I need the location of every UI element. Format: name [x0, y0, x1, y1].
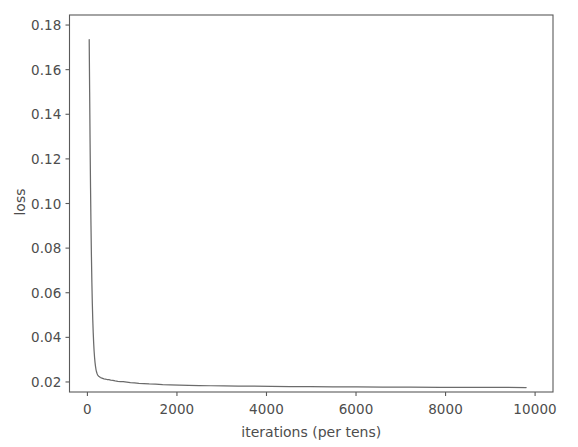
- x-tick-label: 8000: [428, 401, 463, 417]
- y-tick-label: 0.08: [31, 240, 61, 256]
- y-tick-label: 0.06: [31, 285, 61, 301]
- y-axis-label: loss: [12, 182, 28, 222]
- x-tick-label: 2000: [160, 401, 195, 417]
- y-tick-label: 0.04: [31, 329, 61, 345]
- x-tick-label: 6000: [339, 401, 374, 417]
- plot-svg: [0, 0, 578, 447]
- x-tick-label: 4000: [249, 401, 284, 417]
- figure-canvas: 0.020.040.060.080.100.120.140.160.18 020…: [0, 0, 578, 447]
- y-tick-label: 0.10: [31, 196, 61, 212]
- axes-frame: [70, 15, 554, 392]
- y-tick-label: 0.02: [31, 374, 61, 390]
- x-axis-label: iterations (per tens): [241, 424, 381, 440]
- y-tick-label: 0.18: [31, 17, 61, 33]
- data-series: [89, 40, 526, 388]
- y-tick-label: 0.16: [31, 62, 61, 78]
- x-tick-label: 0: [83, 401, 92, 417]
- x-tick-label: 10000: [513, 401, 556, 417]
- axis-ticks: [66, 25, 536, 396]
- y-tick-label: 0.14: [31, 106, 61, 122]
- y-tick-label: 0.12: [31, 151, 61, 167]
